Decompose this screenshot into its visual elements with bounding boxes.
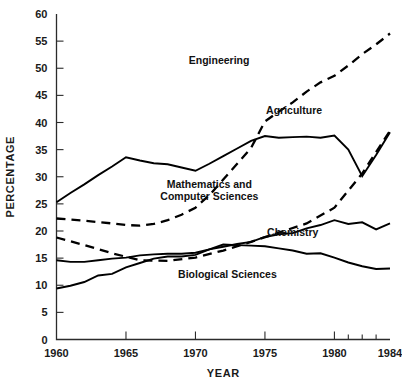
x-tick-label: 1980 xyxy=(322,347,346,359)
y-tick-label: 15 xyxy=(35,252,47,264)
x-tick-label: 1984 xyxy=(378,347,402,359)
y-tick-label: 40 xyxy=(35,117,47,129)
series-label-agriculture: Agriculture xyxy=(266,104,322,116)
y-tick-label: 25 xyxy=(35,198,47,210)
series-label-biological-sciences: Biological Sciences xyxy=(178,268,277,280)
x-tick-label: 1960 xyxy=(44,347,68,359)
y-tick-label: 45 xyxy=(35,89,47,101)
x-tick-label: 1965 xyxy=(114,347,138,359)
series-label-engineering: Engineering xyxy=(189,54,250,66)
series-label-line-1: Mathematics and xyxy=(167,178,252,190)
y-tick-label: 20 xyxy=(35,225,47,237)
x-axis-title: YEAR xyxy=(207,367,240,379)
y-tick-label: 0 xyxy=(41,334,47,346)
line-chart-figure: 051015202530354045505560 196019651970197… xyxy=(0,0,402,384)
y-tick-label: 60 xyxy=(35,8,47,20)
y-axis-title: PERCENTAGE xyxy=(4,136,16,218)
chart-canvas: 051015202530354045505560 196019651970197… xyxy=(0,0,402,384)
y-tick-label: 30 xyxy=(35,171,47,183)
series-label-mathematics-and-computer-sciences: Mathematics andComputer Sciences xyxy=(160,178,258,202)
x-tick-label: 1970 xyxy=(183,347,207,359)
y-tick-label: 50 xyxy=(35,62,47,74)
series-label-chemistry: Chemistry xyxy=(267,226,319,238)
y-tick-label: 10 xyxy=(35,279,47,291)
series-label-line-2: Computer Sciences xyxy=(160,190,258,202)
x-tick-label: 1975 xyxy=(253,347,277,359)
y-tick-label: 5 xyxy=(41,306,47,318)
y-tick-label: 55 xyxy=(35,35,47,47)
y-tick-label: 35 xyxy=(35,144,47,156)
